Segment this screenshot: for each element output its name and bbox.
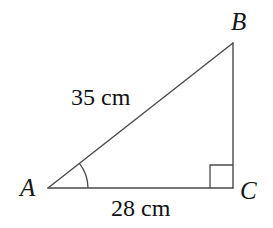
angle-arc-a-icon xyxy=(79,163,88,188)
vertex-label-b: B xyxy=(231,9,246,34)
side-length-label-ac: 28 cm xyxy=(111,196,170,220)
vertex-label-a: A xyxy=(20,175,35,200)
geometry-diagram: A B C 35 cm 28 cm xyxy=(0,0,273,228)
side-length-label-ab: 35 cm xyxy=(71,85,130,109)
right-angle-c-icon xyxy=(210,165,233,188)
side-ab-line xyxy=(48,43,233,188)
vertex-label-c: C xyxy=(240,178,257,203)
